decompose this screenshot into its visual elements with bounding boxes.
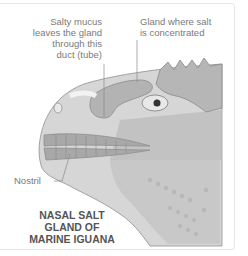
duct-label: Salty mucus leaves the gland through thi… <box>28 16 102 60</box>
duct-label-line: leaves the gland <box>28 27 102 38</box>
title-line: GLAND OF <box>22 221 122 233</box>
duct-label-line: duct (tube) <box>28 49 102 60</box>
nostril-label: Nostril <box>14 175 41 186</box>
title-line: NASAL SALT <box>22 209 122 221</box>
title-line: MARINE IGUANA <box>22 233 122 245</box>
nostril <box>54 103 62 113</box>
duct-label-line: Salty mucus <box>28 16 102 27</box>
duct-label-line: through this <box>28 38 102 49</box>
diagram-title: NASAL SALT GLAND OF MARINE IGUANA <box>22 209 122 245</box>
pupil <box>154 100 161 107</box>
gland-label-line: Gland where salt <box>140 16 230 27</box>
gland-label: Gland where salt is concentrated <box>140 16 230 38</box>
gland-label-line: is concentrated <box>140 27 230 38</box>
